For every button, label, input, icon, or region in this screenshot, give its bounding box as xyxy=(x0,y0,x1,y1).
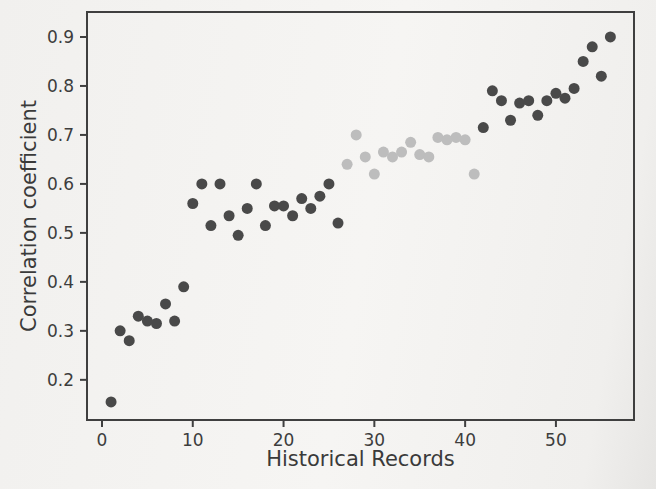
data-point-dark-gray-points xyxy=(251,178,262,189)
axes-box xyxy=(87,12,634,420)
y-tick-label: 0.7 xyxy=(47,125,74,145)
plot-canvas: 010203040500.20.30.40.50.60.70.80.9 xyxy=(0,0,656,489)
data-point-dark-gray-points xyxy=(196,178,207,189)
y-tick-label: 0.4 xyxy=(47,272,74,292)
data-point-dark-gray-points xyxy=(532,110,543,121)
data-point-dark-gray-points xyxy=(106,396,117,407)
data-point-dark-gray-points xyxy=(596,71,607,82)
data-point-dark-gray-points xyxy=(224,210,235,221)
data-point-dark-gray-points xyxy=(569,83,580,94)
data-point-light-gray-points xyxy=(460,134,471,145)
data-point-dark-gray-points xyxy=(560,93,571,104)
data-point-dark-gray-points xyxy=(178,281,189,292)
data-point-dark-gray-points xyxy=(314,191,325,202)
data-point-dark-gray-points xyxy=(233,230,244,241)
data-point-light-gray-points xyxy=(351,129,362,140)
y-tick-label: 0.8 xyxy=(47,76,74,96)
y-axis-label: Correlation coefficient xyxy=(17,100,41,332)
data-point-dark-gray-points xyxy=(541,95,552,106)
y-tick-label: 0.9 xyxy=(47,27,74,47)
data-point-dark-gray-points xyxy=(305,203,316,214)
data-point-light-gray-points xyxy=(405,137,416,148)
data-point-dark-gray-points xyxy=(160,298,171,309)
data-point-dark-gray-points xyxy=(587,41,598,52)
data-point-dark-gray-points xyxy=(523,95,534,106)
data-point-dark-gray-points xyxy=(605,31,616,42)
data-point-dark-gray-points xyxy=(278,200,289,211)
scatter-plot-figure: 010203040500.20.30.40.50.60.70.80.9 Hist… xyxy=(0,0,656,489)
data-point-dark-gray-points xyxy=(205,220,216,231)
y-tick-label: 0.3 xyxy=(47,321,74,341)
x-axis-label: Historical Records xyxy=(87,447,634,471)
y-tick-label: 0.5 xyxy=(47,223,74,243)
y-tick-label: 0.2 xyxy=(47,370,74,390)
data-point-dark-gray-points xyxy=(478,122,489,133)
data-point-dark-gray-points xyxy=(487,85,498,96)
data-point-dark-gray-points xyxy=(296,193,307,204)
data-point-light-gray-points xyxy=(469,169,480,180)
data-point-dark-gray-points xyxy=(287,210,298,221)
data-point-light-gray-points xyxy=(396,147,407,158)
data-point-dark-gray-points xyxy=(215,178,226,189)
data-point-light-gray-points xyxy=(369,169,380,180)
data-point-dark-gray-points xyxy=(169,316,180,327)
data-point-dark-gray-points xyxy=(124,335,135,346)
y-tick-label: 0.6 xyxy=(47,174,74,194)
data-point-dark-gray-points xyxy=(151,318,162,329)
data-point-dark-gray-points xyxy=(242,203,253,214)
data-point-dark-gray-points xyxy=(578,56,589,67)
data-point-dark-gray-points xyxy=(115,325,126,336)
data-point-dark-gray-points xyxy=(323,178,334,189)
data-point-dark-gray-points xyxy=(260,220,271,231)
data-point-light-gray-points xyxy=(360,151,371,162)
data-point-dark-gray-points xyxy=(505,115,516,126)
data-point-light-gray-points xyxy=(423,151,434,162)
data-point-light-gray-points xyxy=(342,159,353,170)
data-point-dark-gray-points xyxy=(333,218,344,229)
data-point-dark-gray-points xyxy=(496,95,507,106)
data-point-dark-gray-points xyxy=(187,198,198,209)
